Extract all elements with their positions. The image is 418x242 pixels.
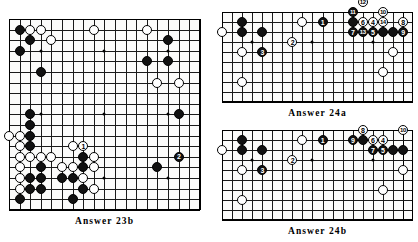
- stone-black[interactable]: [152, 162, 162, 172]
- stone-white[interactable]: [378, 67, 388, 77]
- stone-black[interactable]: [237, 145, 247, 155]
- stone-white[interactable]: [89, 25, 99, 35]
- stone-white[interactable]: [15, 131, 25, 141]
- stone-white[interactable]: [89, 152, 99, 162]
- stone-white[interactable]: [388, 47, 398, 57]
- stone-black[interactable]: [237, 27, 247, 37]
- stone-black-1[interactable]: 1: [318, 135, 328, 145]
- stone-white[interactable]: [142, 25, 152, 35]
- stone-black[interactable]: [78, 152, 88, 162]
- stone-white-14[interactable]: 14: [378, 17, 388, 27]
- stone-black[interactable]: [388, 145, 398, 155]
- stone-white[interactable]: [237, 195, 247, 205]
- stone-black[interactable]: [257, 145, 267, 155]
- stone-black-7[interactable]: 7: [348, 27, 358, 37]
- stone-black[interactable]: [237, 135, 247, 145]
- stone-black[interactable]: [237, 17, 247, 27]
- stone-white-12[interactable]: 12: [358, 0, 368, 7]
- stone-black[interactable]: [25, 184, 35, 194]
- stone-black-5[interactable]: 5: [378, 145, 388, 155]
- stone-black[interactable]: [25, 131, 35, 141]
- stone-black[interactable]: [388, 27, 398, 37]
- stone-black[interactable]: [68, 194, 78, 204]
- stone-black[interactable]: [174, 109, 184, 119]
- stone-white-4[interactable]: 4: [378, 135, 388, 145]
- stone-white[interactable]: [237, 77, 247, 87]
- go-board-answer-23b[interactable]: 12: [9, 19, 200, 210]
- stone-white[interactable]: [15, 141, 25, 151]
- stone-black-13[interactable]: 13: [358, 27, 368, 37]
- stone-white-4[interactable]: 4: [368, 17, 378, 27]
- stone-white[interactable]: [68, 162, 78, 172]
- stone-white-1[interactable]: 1: [78, 141, 88, 151]
- stone-black-1[interactable]: 1: [318, 17, 328, 27]
- stone-white[interactable]: [15, 162, 25, 172]
- stone-black-3[interactable]: 3: [257, 165, 267, 175]
- stone-black-11[interactable]: 11: [348, 7, 358, 17]
- stone-black[interactable]: [358, 135, 368, 145]
- stone-white[interactable]: [68, 141, 78, 151]
- stone-black-2[interactable]: 2: [174, 152, 184, 162]
- stone-black[interactable]: [142, 56, 152, 66]
- stone-black[interactable]: [36, 184, 46, 194]
- stone-black-3[interactable]: 3: [257, 47, 267, 57]
- stone-white-10[interactable]: 10: [398, 125, 408, 135]
- go-board-answer-24b[interactable]: 31298641075: [222, 130, 413, 220]
- stone-black[interactable]: [36, 162, 46, 172]
- stone-white[interactable]: [36, 152, 46, 162]
- stone-black[interactable]: [25, 109, 35, 119]
- stone-white-6[interactable]: 6: [358, 17, 368, 27]
- stone-white[interactable]: [152, 78, 162, 88]
- stone-white[interactable]: [15, 184, 25, 194]
- stone-black-7[interactable]: 7: [368, 145, 378, 155]
- stone-white[interactable]: [297, 17, 307, 27]
- go-board-answer-24a[interactable]: 3121112106414871359: [222, 12, 413, 102]
- stone-white-10[interactable]: 10: [378, 7, 388, 17]
- stone-black[interactable]: [68, 173, 78, 183]
- stone-white-6[interactable]: 6: [368, 135, 378, 145]
- stone-black[interactable]: [57, 173, 67, 183]
- stone-white[interactable]: [217, 27, 227, 37]
- stone-white[interactable]: [15, 173, 25, 183]
- stone-black[interactable]: [398, 145, 408, 155]
- stone-black[interactable]: [25, 173, 35, 183]
- stone-black[interactable]: [348, 17, 358, 27]
- stone-white-8[interactable]: 8: [358, 125, 368, 135]
- stone-black[interactable]: [257, 27, 267, 37]
- stone-white[interactable]: [89, 162, 99, 172]
- stone-white[interactable]: [36, 25, 46, 35]
- stone-black[interactable]: [25, 120, 35, 130]
- stone-white[interactable]: [57, 162, 67, 172]
- stone-black[interactable]: [15, 25, 25, 35]
- stone-white[interactable]: [217, 145, 227, 155]
- stone-black-9[interactable]: 9: [398, 27, 408, 37]
- stone-white[interactable]: [174, 78, 184, 88]
- stone-black[interactable]: [163, 35, 173, 45]
- stone-black[interactable]: [163, 56, 173, 66]
- stone-white[interactable]: [378, 185, 388, 195]
- stone-black[interactable]: [36, 173, 46, 183]
- stone-black[interactable]: [36, 67, 46, 77]
- stone-white[interactable]: [398, 165, 408, 175]
- stone-black-9[interactable]: 9: [348, 135, 358, 145]
- stone-white[interactable]: [25, 152, 35, 162]
- stone-black[interactable]: [25, 35, 35, 45]
- stone-white[interactable]: [237, 47, 247, 57]
- stone-white-2[interactable]: 2: [287, 37, 297, 47]
- stone-white[interactable]: [89, 184, 99, 194]
- stone-white[interactable]: [4, 131, 14, 141]
- stone-white-2[interactable]: 2: [287, 155, 297, 165]
- stone-black[interactable]: [78, 162, 88, 172]
- stone-white[interactable]: [46, 152, 56, 162]
- stone-white[interactable]: [237, 165, 247, 175]
- stone-white-8[interactable]: 8: [398, 17, 408, 27]
- stone-black[interactable]: [78, 184, 88, 194]
- stone-black-5[interactable]: 5: [368, 27, 378, 37]
- stone-black[interactable]: [25, 141, 35, 151]
- stone-white[interactable]: [25, 25, 35, 35]
- stone-white[interactable]: [297, 135, 307, 145]
- stone-white[interactable]: [78, 173, 88, 183]
- stone-black[interactable]: [15, 46, 25, 56]
- stone-white[interactable]: [46, 35, 56, 45]
- stone-black[interactable]: [378, 27, 388, 37]
